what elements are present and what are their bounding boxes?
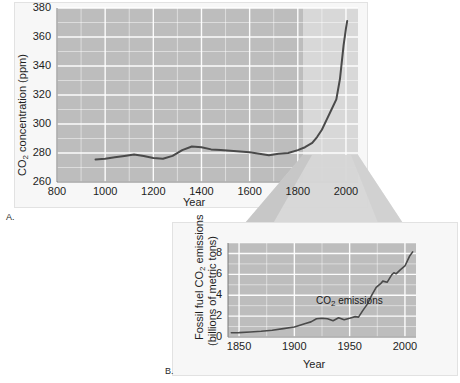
tick-x-b-1900: 1900 <box>278 341 310 352</box>
tick-x-b-2000: 2000 <box>389 341 421 352</box>
annotation-text-a: CO <box>316 295 331 306</box>
y-axis-title-text-b: Fossil fuel CO <box>193 271 205 340</box>
panel-b-x-axis-title: Year <box>303 358 325 370</box>
annotation-subscript: 2 <box>331 299 335 308</box>
tick-y-a-360: 360 <box>17 31 51 42</box>
tick-y-b-0: 0 <box>188 331 222 342</box>
tick-y-a-340: 340 <box>17 60 51 71</box>
y-axis-title-text-b2: emissions <box>193 215 205 267</box>
tick-x-a-800: 800 <box>41 186 73 197</box>
tick-x-b-1850: 1850 <box>223 341 255 352</box>
tick-y-b-4: 4 <box>188 289 222 300</box>
tick-y-a-380: 380 <box>17 2 51 13</box>
tick-x-a-1200: 1200 <box>137 186 169 197</box>
panel-b-annotation: CO2 emissions <box>316 295 383 306</box>
tick-y-a-280: 280 <box>17 147 51 158</box>
tick-x-b-1950: 1950 <box>334 341 366 352</box>
tick-y-b-8: 8 <box>188 247 222 258</box>
tick-x-a-1800: 1800 <box>282 186 314 197</box>
tick-y-b-6: 6 <box>188 268 222 279</box>
tick-y-a-300: 300 <box>17 118 51 129</box>
tick-x-a-1400: 1400 <box>185 186 217 197</box>
tick-x-a-2000: 2000 <box>330 186 362 197</box>
tick-y-b-2: 2 <box>188 310 222 321</box>
tick-x-a-1000: 1000 <box>89 186 121 197</box>
panel-b-letter: B. <box>165 366 174 376</box>
tick-y-a-320: 320 <box>17 89 51 100</box>
annotation-text-b: emissions <box>335 295 382 306</box>
tick-x-a-1600: 1600 <box>234 186 266 197</box>
